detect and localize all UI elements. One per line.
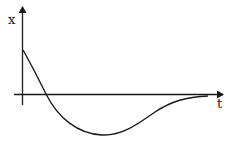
response-curve <box>23 50 208 135</box>
x-axis-label: t <box>217 97 222 110</box>
y-axis-label: x <box>8 13 15 26</box>
graph-canvas <box>0 0 233 141</box>
graph-diagram: x t <box>0 0 233 141</box>
